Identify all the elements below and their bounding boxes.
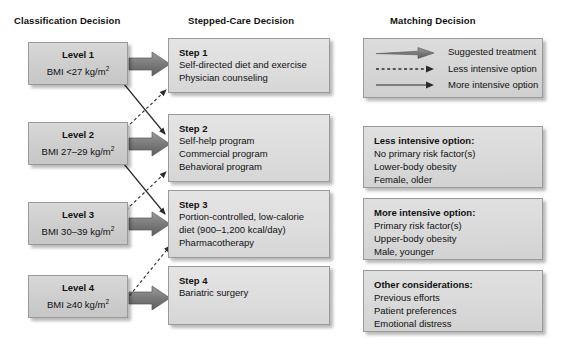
legend-label-suggested: Suggested treatment: [448, 46, 536, 57]
step-box-1[interactable]: Step 1 Self-directed diet and exercise P…: [168, 38, 330, 93]
arrow-level3-to-step3: [129, 212, 170, 236]
step-title: Step 1: [179, 46, 329, 59]
arrow-level4-to-step3: [126, 246, 170, 300]
arrow-level4-to-step4: [129, 286, 170, 310]
level-detail: BMI ≥40 kg/m2: [47, 295, 109, 312]
level-box-2[interactable]: Level 2 BMI 27–29 kg/m2: [28, 122, 128, 165]
column-header-matching: Matching Decision: [390, 15, 476, 26]
matching-line: Lower-body obesity: [374, 161, 542, 174]
matching-box-more-intensive[interactable]: More intensive option: Primary risk fact…: [363, 198, 543, 260]
matching-line: Upper-body obesity: [374, 233, 542, 246]
step-line: Behavioral program: [179, 161, 329, 174]
level-box-4[interactable]: Level 4 BMI ≥40 kg/m2: [28, 275, 128, 318]
level-detail: BMI 27–29 kg/m2: [42, 142, 115, 159]
matching-line: Female, older: [374, 174, 542, 187]
matching-line: Emotional distress: [374, 318, 542, 331]
step-line: Pharmacotherapy: [179, 237, 329, 250]
arrow-level2-to-step2: [129, 132, 170, 156]
matching-line: Previous efforts: [374, 292, 542, 305]
legend-label-more-intensive: More intensive option: [448, 79, 538, 90]
level-title: Level 3: [62, 208, 94, 221]
step-line: Self-help program: [179, 135, 329, 148]
arrow-level1-to-step2: [124, 84, 165, 134]
step-line: Commercial program: [179, 148, 329, 161]
level-box-3[interactable]: Level 3 BMI 30–39 kg/m2: [28, 202, 128, 245]
step-line: diet (900–1,200 kcal/day): [179, 224, 329, 237]
diagram-canvas: Classification Decision Stepped-Care Dec…: [0, 0, 565, 349]
step-title: Step 2: [179, 122, 329, 135]
matching-line: Patient preferences: [374, 305, 542, 318]
matching-box-other-considerations[interactable]: Other considerations: Previous efforts P…: [363, 270, 543, 332]
level-detail: BMI 30–39 kg/m2: [42, 222, 115, 239]
step-line: Portion-controlled, low-calorie: [179, 211, 329, 224]
matching-title: Other considerations:: [374, 278, 542, 292]
step-line: Physician counseling: [179, 72, 329, 85]
dashed-arrow-icon: [374, 62, 438, 76]
matching-line: Male, younger: [374, 246, 542, 259]
step-box-2[interactable]: Step 2 Self-help program Commercial prog…: [168, 114, 330, 182]
matching-line: No primary risk factor(s): [374, 148, 542, 161]
column-header-classification: Classification Decision: [14, 15, 120, 26]
level-title: Level 2: [62, 128, 94, 141]
thick-gray-arrow-icon: [374, 46, 438, 60]
step-box-3[interactable]: Step 3 Portion-controlled, low-calorie d…: [168, 190, 330, 258]
legend-box: Suggested treatment Less intensive optio…: [363, 38, 543, 98]
arrow-level1-to-step1: [129, 52, 170, 76]
column-header-stepped-care: Stepped-Care Decision: [188, 15, 294, 26]
step-line: Bariatric surgery: [179, 287, 329, 300]
arrow-level2-to-step1: [126, 90, 166, 128]
level-detail: BMI <27 kg/m2: [47, 62, 110, 79]
solid-arrow-icon: [374, 78, 438, 92]
matching-box-less-intensive[interactable]: Less intensive option: No primary risk f…: [363, 126, 543, 188]
step-title: Step 4: [179, 274, 329, 287]
legend-label-less-intensive: Less intensive option: [448, 63, 537, 74]
level-box-1[interactable]: Level 1 BMI <27 kg/m2: [28, 42, 128, 85]
matching-line: Primary risk factor(s): [374, 220, 542, 233]
matching-title: Less intensive option:: [374, 134, 542, 148]
step-title: Step 3: [179, 198, 329, 211]
level-title: Level 1: [62, 48, 94, 61]
matching-title: More intensive option:: [374, 206, 542, 220]
arrow-level2-to-step3: [124, 164, 165, 214]
level-title: Level 4: [62, 281, 94, 294]
step-line: Self-directed diet and exercise: [179, 59, 329, 72]
step-box-4[interactable]: Step 4 Bariatric surgery: [168, 266, 330, 325]
arrow-level3-to-step2: [126, 172, 166, 210]
